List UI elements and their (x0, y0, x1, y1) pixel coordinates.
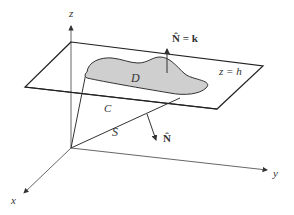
plane-label: z = h (219, 66, 242, 77)
region-label: D (131, 72, 140, 84)
x-axis (24, 148, 71, 193)
normal-side-label: N̂ (163, 133, 171, 144)
normal-side-arrow (147, 114, 156, 140)
curve-label: C (104, 103, 111, 114)
region-d (85, 57, 208, 94)
normal-top-label: N̂ = k (172, 33, 198, 44)
x-axis-label: x (11, 195, 16, 206)
surface-edge-left (71, 73, 86, 148)
y-axis-label: y (273, 168, 278, 179)
y-axis (71, 148, 267, 170)
z-axis-label: z (69, 8, 73, 19)
surface-label: S (112, 126, 118, 138)
surface-diagram: z x y z = h D C S N̂ = k N̂ (0, 0, 294, 215)
diagram-canvas (0, 0, 294, 215)
